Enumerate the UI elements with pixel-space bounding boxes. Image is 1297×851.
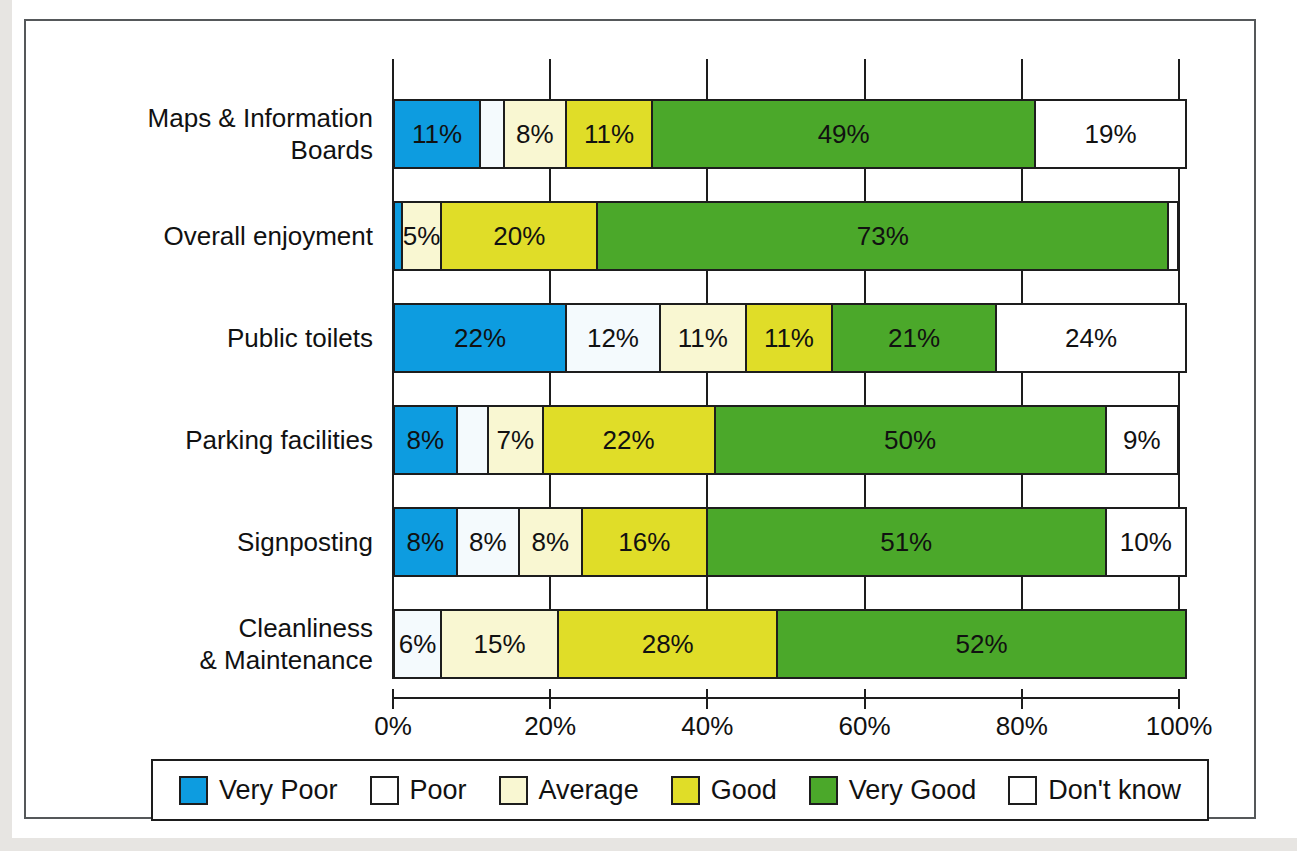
axis-tick-label-0: 0% [374,711,412,742]
bar-segment: 7% [489,407,544,473]
legend-item[interactable]: Very Good [809,775,977,806]
axis-tick-60 [864,689,866,709]
bar-segment: 12% [567,305,661,371]
legend-label: Very Poor [219,775,338,806]
legend-swatch-icon [671,776,700,805]
category-row: Signposting8%8%8%16%51%10% [369,507,1179,577]
stacked-bar: 22%12%11%11%21%24% [393,303,1187,373]
bar-segment: 20% [442,203,598,269]
bar-segment: 8% [395,407,458,473]
bar-segment-label: 50% [884,427,936,453]
legend-item[interactable]: Average [499,775,639,806]
bar-segment: 19% [1036,101,1185,167]
bar-segment [395,203,403,269]
bar-segment: 21% [833,305,997,371]
chart-page: Maps & InformationBoards11%8%11%49%19%Ov… [0,0,1297,851]
bar-segment-label: 21% [888,325,940,351]
bar-segment-label: 51% [880,529,932,555]
axis-tick-100 [1178,689,1180,709]
bar-segment: 11% [747,305,833,371]
bar-segment [458,407,489,473]
scan-edge-left [0,0,12,851]
bar-segment-label: 19% [1085,121,1137,147]
category-label: Overall enjoyment [73,220,373,252]
bar-segment-label: 49% [818,121,870,147]
category-label: Maps & InformationBoards [73,102,373,166]
bar-segment-label: 8% [406,529,444,555]
bar-segment: 8% [505,101,568,167]
category-row: Maps & InformationBoards11%8%11%49%19% [369,99,1179,169]
category-label-line: Boards [73,134,373,166]
legend-item[interactable]: Don't know [1008,775,1181,806]
bar-segment-label: 24% [1065,325,1117,351]
stacked-bar: 11%8%11%49%19% [393,99,1187,169]
bar-segment-label: 11% [678,325,728,351]
bar-segment: 8% [520,509,583,575]
axis-tick-label-20: 20% [524,711,576,742]
legend-item[interactable]: Good [671,775,777,806]
bar-segment-label: 8% [516,121,554,147]
bar-segment-label: 22% [454,325,506,351]
axis-tick-40 [706,689,708,709]
category-row: Parking facilities8%7%22%50%9% [369,405,1179,475]
category-label: Parking facilities [73,424,373,456]
bar-segment [481,101,504,167]
legend-swatch-icon [179,776,208,805]
bar-segment: 15% [442,611,559,677]
category-label-line: & Maintenance [73,644,373,676]
legend-label: Good [711,775,777,806]
bar-segment-label: 11% [584,121,634,147]
value-axis-line [393,697,1179,699]
legend-swatch-icon [1008,776,1037,805]
bar-segment: 6% [395,611,442,677]
bar-segment: 8% [395,509,458,575]
axis-tick-label-100: 100% [1146,711,1213,742]
bar-segment-label: 52% [955,631,1007,657]
category-label: Signposting [73,526,373,558]
bar-segment-label: 73% [857,223,909,249]
category-label: Cleanliness& Maintenance [73,612,373,676]
bar-segment-label: 5% [403,223,441,249]
bar-segment: 51% [708,509,1107,575]
axis-tick-20 [549,689,551,709]
bar-segment: 16% [583,509,708,575]
legend-item[interactable]: Poor [370,775,467,806]
legend-label: Poor [410,775,467,806]
category-label: Public toilets [73,322,373,354]
bar-segment: 9% [1107,407,1177,473]
axis-tick-80 [1021,689,1023,709]
legend-swatch-icon [809,776,838,805]
bar-segment: 22% [395,305,567,371]
bar-segment: 73% [598,203,1169,269]
legend-label: Don't know [1048,775,1181,806]
category-label-line: Parking facilities [73,424,373,456]
bar-segment-label: 20% [493,223,545,249]
legend-swatch-icon [499,776,528,805]
bar-segment-label: 8% [406,427,444,453]
bar-segment: 22% [544,407,716,473]
figure-frame: Maps & InformationBoards11%8%11%49%19%Ov… [24,19,1256,819]
bar-segment: 50% [716,407,1107,473]
chart-legend: Very PoorPoorAverageGoodVery GoodDon't k… [151,759,1209,821]
stacked-bar: 6%15%28%52% [393,609,1187,679]
category-row: Cleanliness& Maintenance6%15%28%52% [369,609,1179,679]
stacked-bar: 5%20%73% [393,201,1179,271]
category-label-line: Cleanliness [73,612,373,644]
category-label-line: Signposting [73,526,373,558]
axis-tick-0 [392,689,394,709]
legend-swatch-icon [370,776,399,805]
plot-area: Maps & InformationBoards11%8%11%49%19%Ov… [369,59,1179,679]
axis-tick-label-80: 80% [996,711,1048,742]
bar-segment-label: 8% [532,529,570,555]
bar-segment: 52% [778,611,1185,677]
bar-segment-label: 6% [399,631,437,657]
axis-tick-label-60: 60% [839,711,891,742]
bar-segment: 10% [1107,509,1185,575]
bar-segment-label: 15% [474,631,526,657]
bar-segment-label: 10% [1120,529,1172,555]
bar-segment: 11% [395,101,481,167]
axis-tick-label-40: 40% [681,711,733,742]
legend-item[interactable]: Very Poor [179,775,338,806]
bar-segment-label: 16% [618,529,670,555]
bar-segment-label: 11% [764,325,814,351]
